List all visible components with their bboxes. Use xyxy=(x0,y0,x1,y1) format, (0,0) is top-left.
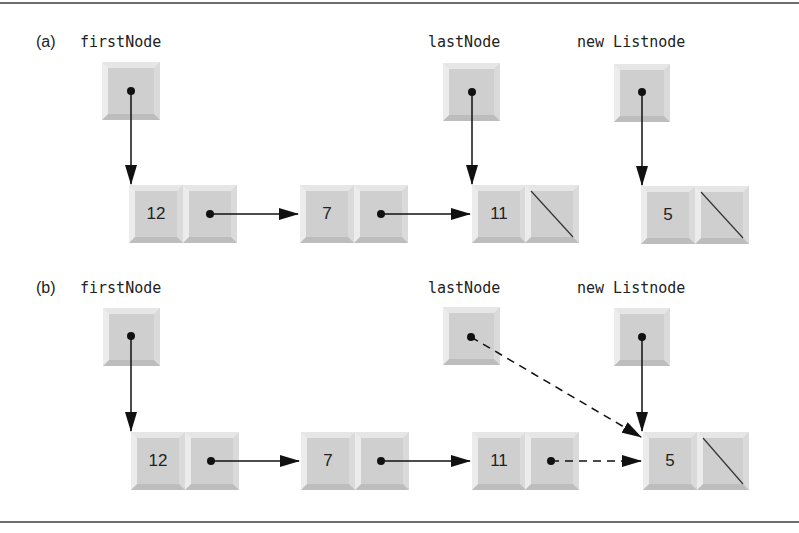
part-a-node-7-data: 7 xyxy=(300,185,354,243)
part-a-firstnode-label: firstNode xyxy=(80,33,161,51)
frame-bottom-rule xyxy=(0,521,799,523)
part-a-lastnode-label: lastNode xyxy=(428,33,500,51)
part-b-node-5-data: 5 xyxy=(643,432,697,490)
part-b-node-5-next-null xyxy=(697,432,749,490)
part-b-node-7-next xyxy=(355,432,409,490)
part-b-node-12-data: 12 xyxy=(131,432,185,490)
part-a-lastnode-pointer-box xyxy=(443,63,500,121)
part-b-node-7-data: 7 xyxy=(301,432,355,490)
part-a-node-5-next-null xyxy=(695,186,749,244)
part-b-newnode-label: new Listnode xyxy=(577,279,685,297)
node-value: 5 xyxy=(647,192,689,238)
part-b-node-12-next xyxy=(185,432,239,490)
part-a-node-11-data: 11 xyxy=(472,185,526,243)
node-value: 11 xyxy=(478,191,520,237)
part-a-node-12-data: 12 xyxy=(129,185,183,243)
part-b-node-11-data: 11 xyxy=(472,432,526,490)
node-value: 12 xyxy=(135,191,177,237)
part-a-node-12-next xyxy=(183,185,237,243)
part-a-label: (a) xyxy=(36,33,56,51)
part-b-firstnode-label: firstNode xyxy=(80,279,161,297)
part-a-node-5-data: 5 xyxy=(641,186,695,244)
pointer-dots xyxy=(127,87,646,465)
part-b-lastnode-label: lastNode xyxy=(428,279,500,297)
part-a-newnode-pointer-box xyxy=(614,64,670,122)
part-b-label: (b) xyxy=(36,279,56,297)
part-b-firstnode-pointer-box xyxy=(103,308,160,366)
part-a-newnode-label: new Listnode xyxy=(577,33,685,51)
frame-top-rule xyxy=(0,2,799,4)
part-b-lastnode-pointer-box xyxy=(443,307,500,365)
node-value: 5 xyxy=(649,438,691,484)
node-value: 7 xyxy=(307,438,349,484)
node-value: 7 xyxy=(306,191,348,237)
part-b-node-11-next xyxy=(525,432,579,490)
part-b-newnode-pointer-box xyxy=(614,308,670,366)
node-value: 11 xyxy=(478,438,520,484)
part-a-node-11-next-null xyxy=(525,185,579,243)
node-value: 12 xyxy=(137,438,179,484)
part-a-node-7-next xyxy=(354,185,408,243)
part-a-firstnode-pointer-box xyxy=(102,62,160,120)
